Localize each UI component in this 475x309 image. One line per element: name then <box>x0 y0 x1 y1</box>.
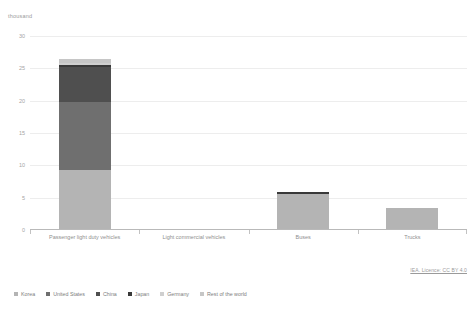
bar-segment[interactable] <box>386 208 438 230</box>
legend-label: Japan <box>135 291 149 297</box>
y-axis-tick-label: 15 <box>19 130 25 136</box>
legend-item[interactable]: Korea <box>14 291 35 297</box>
bar-group-container <box>30 36 467 230</box>
bar-segment[interactable] <box>59 170 111 230</box>
legend-swatch-icon <box>14 292 18 296</box>
x-axis-tick-mark <box>139 230 140 234</box>
x-axis-category-label: Passenger light duty vehicles <box>49 234 120 240</box>
legend-swatch-icon <box>96 292 100 296</box>
legend-label: Korea <box>21 291 35 297</box>
x-axis-categories: Passenger light duty vehiclesLight comme… <box>30 230 467 246</box>
bar-segment[interactable] <box>59 102 111 170</box>
x-axis-tick-mark <box>249 230 250 234</box>
bar-segment[interactable] <box>277 194 329 230</box>
x-axis-tick-mark <box>466 230 467 234</box>
legend-item[interactable]: United States <box>46 291 85 297</box>
legend-item[interactable]: China <box>96 291 117 297</box>
bar-group[interactable] <box>386 208 438 230</box>
y-axis-tick-label: 25 <box>19 65 25 71</box>
legend-swatch-icon <box>46 292 50 296</box>
legend-swatch-icon <box>160 292 164 296</box>
x-axis-tick-mark <box>358 230 359 234</box>
legend-swatch-icon <box>200 292 204 296</box>
legend-label: Germany <box>167 291 189 297</box>
x-axis-category-label: Trucks <box>404 234 420 240</box>
bar-group[interactable] <box>59 59 111 230</box>
y-axis-tick-label: 10 <box>19 162 25 168</box>
bar-segment[interactable] <box>59 67 111 102</box>
y-axis-tick-label: 30 <box>19 33 25 39</box>
x-axis-category-label: Buses <box>295 234 310 240</box>
legend-swatch-icon <box>128 292 132 296</box>
axis-unit-label: thousand <box>8 13 32 19</box>
y-axis-tick-label: 0 <box>22 227 25 233</box>
y-axis-tick-label: 20 <box>19 98 25 104</box>
legend-item[interactable]: Rest of the world <box>200 291 247 297</box>
legend-label: Rest of the world <box>207 291 247 297</box>
attribution-link[interactable]: IEA. Licence: CC BY 4.0 <box>410 267 467 273</box>
plot-area: 302520151050 <box>30 36 467 230</box>
y-axis-tick-label: 5 <box>22 195 25 201</box>
chart-legend: KoreaUnited StatesChinaJapanGermanyRest … <box>14 291 247 297</box>
legend-item[interactable]: Germany <box>160 291 189 297</box>
legend-item[interactable]: Japan <box>128 291 149 297</box>
bar-group[interactable] <box>277 192 329 230</box>
chart-container: thousand 302520151050 Passenger light du… <box>0 0 475 309</box>
x-axis-tick-mark <box>30 230 31 234</box>
x-axis-category-label: Light commercial vehicles <box>162 234 225 240</box>
legend-label: United States <box>53 291 85 297</box>
legend-label: China <box>103 291 117 297</box>
